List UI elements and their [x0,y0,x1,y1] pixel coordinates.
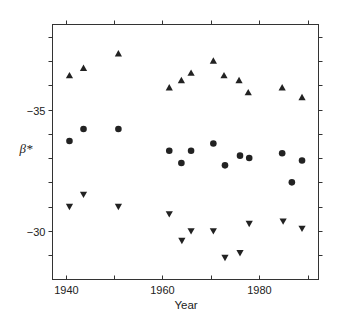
point-lower-triangle-down [80,192,87,198]
point-upper-triangle-up [210,57,217,63]
point-middle-circle [188,147,195,154]
point-lower-triangle-down [166,211,173,217]
point-middle-circle [246,155,253,162]
x-tick-label: 1980 [247,284,271,296]
point-upper-triangle-up [298,94,305,100]
point-lower-triangle-down [236,250,243,256]
point-upper-triangle-up [245,89,252,95]
point-upper-triangle-up [66,72,73,78]
scatter-chart: 194019601980 −35−30 Year β* [0,0,337,322]
point-upper-triangle-up [220,72,227,78]
point-upper-triangle-up [166,84,173,90]
x-axis-label: Year [174,299,197,311]
point-lower-triangle-down [178,238,185,244]
point-middle-circle [166,147,173,154]
point-middle-circle [115,126,122,133]
point-middle-circle [222,162,229,169]
point-middle-circle [289,179,296,186]
point-lower-triangle-down [210,228,217,234]
x-axis: 194019601980 [54,21,308,296]
x-tick-label: 1960 [150,284,174,296]
point-lower-triangle-down [187,228,194,234]
point-middle-circle [178,160,185,167]
point-lower-triangle-down [280,218,287,224]
y-axis: −35−30 [27,38,323,256]
point-upper-triangle-up [235,77,242,83]
point-lower-triangle-down [246,221,253,227]
point-middle-circle [279,150,286,157]
point-middle-circle [237,152,244,159]
y-tick-label: −30 [27,226,46,238]
point-upper-triangle-up [187,69,194,75]
point-lower-triangle-down [221,255,228,261]
point-middle-circle [299,157,306,164]
point-middle-circle [66,138,73,145]
y-axis-label: β* [19,141,33,156]
data-points [66,50,306,261]
y-tick-label: −35 [27,105,46,117]
point-upper-triangle-up [279,84,286,90]
plot-frame [53,25,319,280]
point-upper-triangle-up [80,65,87,71]
point-lower-triangle-down [115,204,122,210]
point-middle-circle [80,126,87,133]
point-middle-circle [210,140,217,147]
point-lower-triangle-down [298,226,305,232]
x-tick-label: 1940 [54,284,78,296]
point-upper-triangle-up [178,77,185,83]
point-upper-triangle-up [115,50,122,56]
point-lower-triangle-down [66,204,73,210]
